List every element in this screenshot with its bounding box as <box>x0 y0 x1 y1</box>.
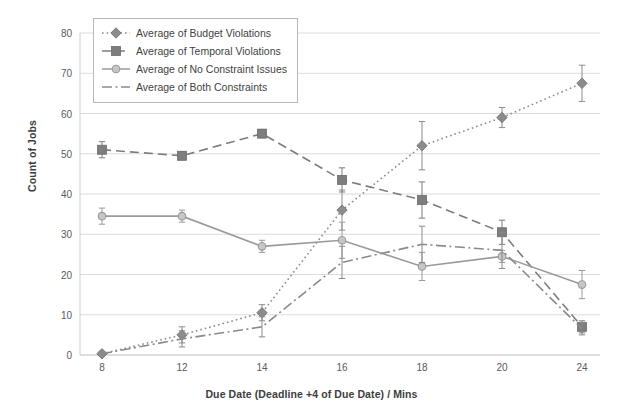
data-marker <box>338 236 346 244</box>
legend-item-no-constraint-issues: Average of No Constraint Issues <box>101 60 287 78</box>
legend-swatch-temporal-violations <box>101 44 131 58</box>
data-marker <box>578 281 586 289</box>
legend-swatch-budget-violations <box>101 26 131 40</box>
legend-item-both-constraints: Average of Both Constraints <box>101 78 287 96</box>
legend-marker <box>112 65 120 73</box>
data-marker <box>417 141 427 151</box>
legend-label-both-constraints: Average of Both Constraints <box>136 81 267 93</box>
data-marker <box>338 175 347 184</box>
legend-label-temporal-violations: Average of Temporal Violations <box>136 45 281 57</box>
data-marker <box>258 243 266 251</box>
legend-swatch-both-constraints <box>101 80 131 94</box>
legend-marker <box>111 28 121 38</box>
data-marker <box>418 263 426 271</box>
data-marker <box>178 212 186 220</box>
legend-label-no-constraint-issues: Average of No Constraint Issues <box>136 63 287 75</box>
data-marker <box>178 151 187 160</box>
legend-item-budget-violations: Average of Budget Violations <box>101 24 287 42</box>
chart-container: Count of Jobs Due Date (Deadline +4 of D… <box>0 0 623 418</box>
data-marker <box>258 129 267 138</box>
data-marker <box>98 212 106 220</box>
legend-item-temporal-violations: Average of Temporal Violations <box>101 42 287 60</box>
chart-legend: Average of Budget Violations Average of … <box>93 18 298 103</box>
data-marker <box>577 78 587 88</box>
data-marker <box>418 196 427 205</box>
legend-label-budget-violations: Average of Budget Violations <box>136 27 271 39</box>
legend-swatch-no-constraint-issues <box>101 62 131 76</box>
data-marker <box>98 145 107 154</box>
legend-marker <box>112 47 121 56</box>
